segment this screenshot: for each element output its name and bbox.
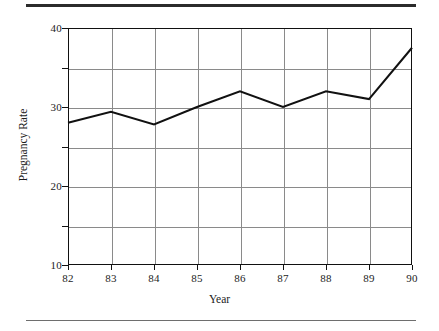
y-axis-tick-label: 30 — [34, 102, 62, 113]
y-axis-tick-label: 20 — [34, 181, 62, 192]
gridline-vertical — [327, 29, 328, 264]
gridline-horizontal — [69, 148, 411, 149]
gridline-horizontal — [69, 187, 411, 188]
x-axis-tick-label: 83 — [96, 272, 126, 284]
x-axis-tick-mark — [111, 265, 112, 270]
gridline-horizontal — [69, 108, 411, 109]
x-axis-title: Year — [0, 293, 439, 305]
gridline-horizontal — [69, 227, 411, 228]
y-axis-tick-mark — [62, 28, 68, 29]
x-axis-tick-label: 86 — [225, 272, 255, 284]
x-axis-tick-label: 88 — [311, 272, 341, 284]
x-axis-tick-mark — [154, 265, 155, 270]
x-axis-tick-label: 90 — [397, 272, 427, 284]
y-axis-title: Pregnancy Rate — [17, 75, 29, 215]
x-axis-tick-mark — [326, 265, 327, 270]
page-rule-bottom — [26, 320, 416, 321]
x-axis-tick-label: 85 — [182, 272, 212, 284]
plot-area — [68, 28, 412, 265]
x-axis-tick-mark — [240, 265, 241, 270]
y-axis-tick-label: 40 — [34, 23, 62, 34]
gridline-horizontal — [69, 69, 411, 70]
x-axis-tick-label: 84 — [139, 272, 169, 284]
x-axis-tick-mark — [283, 265, 284, 270]
x-axis-tick-mark — [197, 265, 198, 270]
x-axis-tick-mark — [412, 265, 413, 270]
gridline-vertical — [198, 29, 199, 264]
figure-pregnancy-rate-by-year: 10203040 828384858687888990 Year Pregnan… — [0, 0, 439, 331]
y-axis-tick-label: 10 — [34, 260, 62, 271]
x-axis-tick-mark — [68, 265, 69, 270]
page-rule-top — [26, 4, 416, 7]
y-axis-tick-mark — [62, 68, 68, 69]
gridline-vertical — [284, 29, 285, 264]
x-axis-tick-label: 82 — [53, 272, 83, 284]
gridline-vertical — [155, 29, 156, 264]
y-axis-tick-mark — [62, 107, 68, 108]
y-axis-tick-mark — [62, 186, 68, 187]
x-axis-tick-label: 87 — [268, 272, 298, 284]
gridline-vertical — [370, 29, 371, 264]
gridline-vertical — [241, 29, 242, 264]
y-axis-tick-mark — [62, 147, 68, 148]
x-axis-tick-mark — [369, 265, 370, 270]
x-axis-tick-label: 89 — [354, 272, 384, 284]
gridline-vertical — [112, 29, 113, 264]
y-axis-tick-mark — [62, 226, 68, 227]
